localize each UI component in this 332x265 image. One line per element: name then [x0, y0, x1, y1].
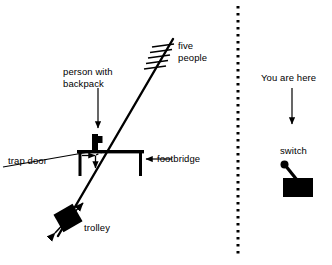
diagram-canvas [0, 0, 332, 265]
label-trolley: trolley [84, 222, 110, 234]
label-footbridge: footbridge [157, 153, 200, 165]
person-with-backpack-figure [92, 134, 103, 150]
label-trap-door: trap door [8, 155, 47, 167]
label-you-are-here: You are here [261, 72, 316, 84]
trolley-problem-diagram: five people person with backpack trap do… [0, 0, 332, 265]
label-person-with-backpack: person with backpack [63, 66, 113, 89]
label-five-people: five people [178, 40, 207, 63]
label-switch: switch [280, 145, 307, 157]
footbridge-structure [77, 150, 144, 176]
switch-figure [281, 161, 314, 198]
